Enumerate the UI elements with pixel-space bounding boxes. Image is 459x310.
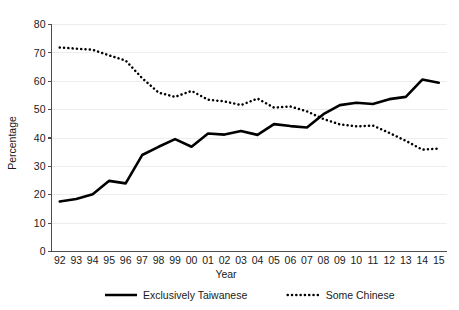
y-tick-label: 70: [34, 47, 46, 59]
chart-canvas: 01020304050607080 9293949596979899000102…: [0, 0, 459, 310]
x-tick-label: 93: [70, 254, 82, 266]
y-tick-label: 50: [34, 103, 46, 115]
x-tick-label: 01: [202, 254, 214, 266]
y-tick-label: 10: [34, 217, 46, 229]
x-tick-label: 96: [120, 254, 132, 266]
x-tick-label: 92: [54, 254, 66, 266]
line-chart: 01020304050607080 9293949596979899000102…: [0, 0, 459, 310]
x-tick-label: 04: [252, 254, 264, 266]
x-tick-label: 08: [318, 254, 330, 266]
x-tick-label: 06: [285, 254, 297, 266]
x-tick-label: 95: [103, 254, 115, 266]
x-tick-label: 13: [400, 254, 412, 266]
x-tick-label: 11: [367, 254, 378, 266]
legend-label-exclusively-taiwanese: Exclusively Taiwanese: [143, 289, 247, 301]
x-tick-label: 14: [416, 254, 428, 266]
x-tick-label: 05: [268, 254, 280, 266]
x-tick-label: 15: [433, 254, 445, 266]
y-tick-label: 0: [40, 245, 46, 257]
x-tick-label: 10: [351, 254, 363, 266]
x-tick-label: 98: [153, 254, 165, 266]
y-axis-title: Percentage: [6, 116, 18, 170]
y-tick-label: 40: [34, 132, 46, 144]
x-tick-label: 09: [334, 254, 346, 266]
x-tick-label: 00: [186, 254, 198, 266]
y-tick-label: 30: [34, 160, 46, 172]
legend-label-some-chinese: Some Chinese: [326, 289, 395, 301]
y-tick-label: 60: [34, 75, 46, 87]
x-tick-label: 97: [136, 254, 148, 266]
x-tick-label: 07: [301, 254, 313, 266]
x-tick-label: 99: [169, 254, 181, 266]
y-tick-label: 20: [34, 188, 46, 200]
x-tick-label: 02: [219, 254, 231, 266]
x-tick-label: 94: [87, 254, 99, 266]
x-tick-label: 12: [383, 254, 395, 266]
x-tick-label: 03: [235, 254, 247, 266]
y-tick-label: 80: [34, 18, 46, 30]
x-axis-title: Year: [215, 268, 237, 280]
